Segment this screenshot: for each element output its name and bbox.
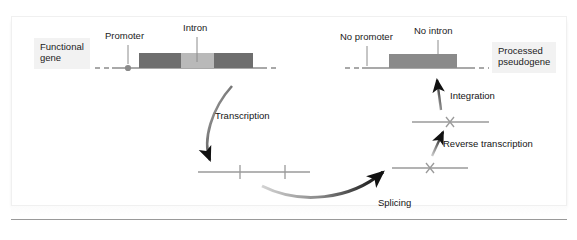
transcription-label: Transcription [215,111,270,122]
processed-pseudogene-label: Processed pseudogene [492,42,556,73]
diagram-graphics [0,0,577,240]
pseudogene-exon-block [389,54,457,68]
no-promoter-label: No promoter [340,32,393,43]
transcription-arrow [207,86,232,160]
functional-gene-label-line2: gene [40,53,84,64]
intron-label: Intron [183,23,207,34]
primary-transcript [198,165,310,179]
functional-gene-label: Functional gene [34,38,90,69]
exon-1-block [139,53,181,68]
reverse-transcription-label: Reverse transcription [443,139,533,150]
spliced-mrna [392,163,468,173]
integration-arrow [437,80,441,110]
integration-label: Integration [450,91,495,102]
cdna-copy [412,117,489,127]
processed-pseudogene-label-line2: pseudogene [498,57,550,68]
promoter-marker [125,65,131,71]
reverse-transcription-arrow [432,132,443,156]
exon-2-block [214,53,253,68]
promoter-label: Promoter [105,31,144,42]
processed-pseudogene-locus [345,40,489,68]
splicing-arrow [262,172,383,197]
no-intron-label: No intron [414,26,453,37]
pseudogene-diagram: Functional gene Promoter Intron No promo… [0,0,577,240]
functional-gene-locus [95,37,280,71]
splicing-label: Splicing [378,198,411,209]
